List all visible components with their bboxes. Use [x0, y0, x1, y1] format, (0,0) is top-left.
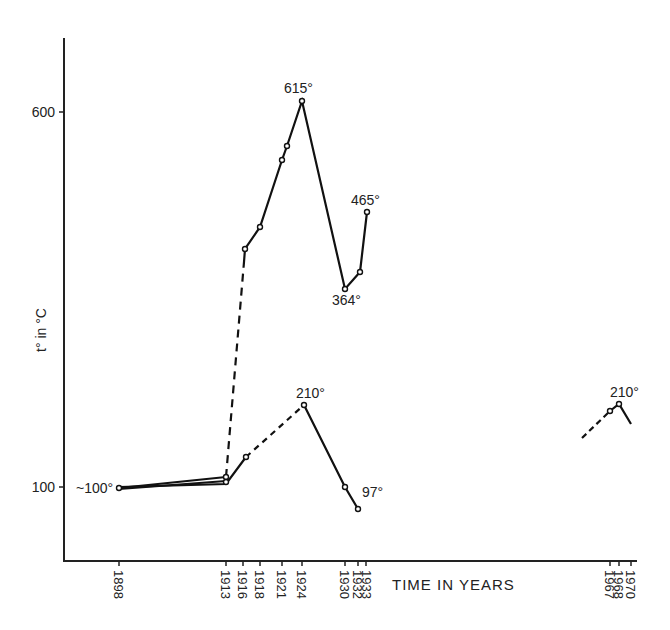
x-tick-label-1924: 1924	[294, 570, 309, 599]
x-axis-label: TIME IN YEARS	[392, 576, 515, 593]
x-tick-label-1913: 1913	[218, 570, 233, 599]
annotation-364: 364°	[332, 292, 361, 308]
x-tick-label-1970: 1970	[623, 570, 638, 599]
x-tick-label-1933: 1933	[359, 570, 374, 599]
series-upper	[119, 101, 367, 488]
data-markers	[117, 99, 622, 512]
y-tick-label-100: 100	[32, 479, 56, 495]
annotation-210-1924: 210°	[296, 385, 325, 401]
series-recent	[582, 404, 631, 438]
x-tick-label-1898: 1898	[111, 570, 126, 599]
annotation-210-1968: 210°	[610, 384, 639, 400]
series-lower	[119, 405, 358, 509]
temperature-chart: 600 100 t° in °C 1898 1913 1916 1918 192…	[0, 0, 670, 630]
y-axis-label: t° in °C	[33, 308, 49, 352]
x-tick-label-1918: 1918	[252, 570, 267, 599]
annotation-97: 97°	[362, 484, 383, 500]
annotation-100: ~100°	[76, 480, 113, 496]
x-tick-label-1921: 1921	[274, 570, 289, 599]
x-tick-label-1930: 1930	[337, 570, 352, 599]
x-tick-label-1916: 1916	[235, 570, 250, 599]
annotation-465: 465°	[351, 192, 380, 208]
y-tick-label-600: 600	[32, 104, 56, 120]
annotation-615: 615°	[284, 80, 313, 96]
